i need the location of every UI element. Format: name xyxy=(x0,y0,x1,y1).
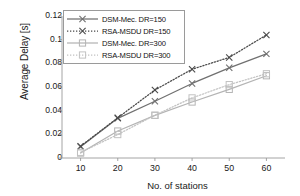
data-point-marker xyxy=(263,32,269,38)
chart-legend: DSM-Mec. DR=150RSA-MSDU DR=150DSM-Mec. D… xyxy=(63,10,185,64)
x-axis-tick-label: 60 xyxy=(251,163,281,173)
data-point-marker xyxy=(77,143,83,149)
data-point-marker xyxy=(189,66,195,72)
legend-item-label: DSM-Mec. DR=150 xyxy=(99,15,166,24)
legend-item-label: DSM-Mec. DR=300 xyxy=(99,39,166,48)
legend-item-1[interactable]: RSA-MSDU DR=150 xyxy=(66,25,181,37)
legend-line-sample xyxy=(66,25,99,37)
data-point-marker xyxy=(152,87,158,93)
legend-item-label: RSA-MSDU DR=300 xyxy=(99,51,170,60)
x-axis-tick-label: 10 xyxy=(66,163,96,173)
data-point-marker xyxy=(189,80,195,86)
series-line-0 xyxy=(81,54,267,147)
chart-figure: Average Delay [s] 00.020.040.060.080.10.… xyxy=(0,0,300,196)
data-point-marker xyxy=(263,51,269,57)
legend-item-3[interactable]: RSA-MSDU DR=300 xyxy=(66,49,181,61)
data-point-marker xyxy=(152,98,158,104)
x-axis-tick-label: 20 xyxy=(103,163,133,173)
x-axis-tick-label: 40 xyxy=(177,163,207,173)
legend-line-sample xyxy=(66,37,99,49)
x-axis-tick-label: 30 xyxy=(140,163,170,173)
legend-item-2[interactable]: DSM-Mec. DR=300 xyxy=(66,37,181,49)
legend-line-sample xyxy=(66,49,99,61)
data-point-marker xyxy=(226,65,232,71)
x-axis-label: No. of stations xyxy=(55,180,300,191)
series-line-2 xyxy=(81,76,267,153)
legend-item-label: RSA-MSDU DR=150 xyxy=(99,27,170,36)
legend-item-0[interactable]: DSM-Mec. DR=150 xyxy=(66,13,181,25)
data-point-marker xyxy=(79,28,85,34)
legend-line-sample xyxy=(66,13,99,25)
data-point-marker xyxy=(226,54,232,60)
x-axis-tick-label: 50 xyxy=(214,163,244,173)
